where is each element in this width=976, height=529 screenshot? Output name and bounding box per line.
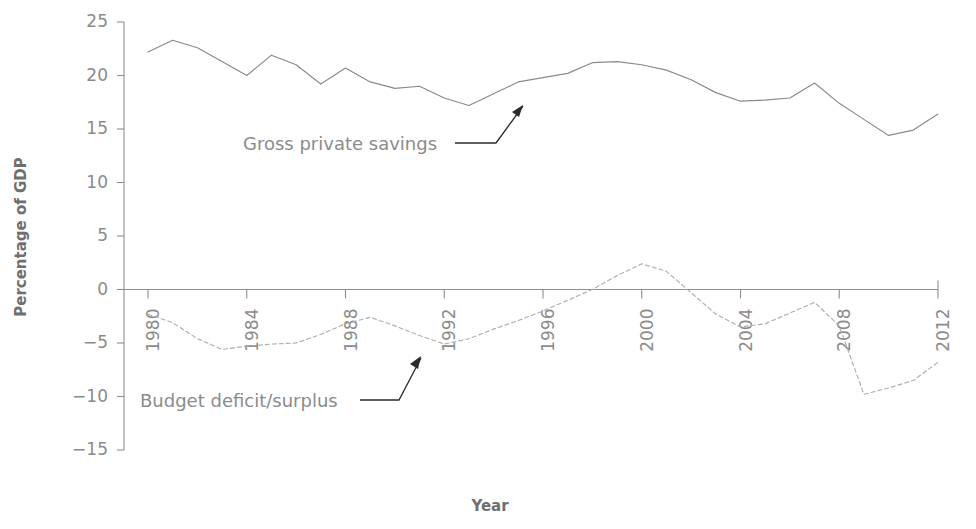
- annotation-label-budget-deficit-surplus: Budget deficit/surplus: [140, 390, 338, 411]
- y-axis: 2520151050−5−10−15: [72, 11, 124, 459]
- x-tick-label: 1992: [439, 309, 459, 352]
- x-tick-label: 1980: [143, 309, 163, 352]
- y-axis-title: Percentage of GDP: [12, 157, 30, 317]
- annotation-budget-deficit-surplus: Budget deficit/surplus: [140, 356, 421, 411]
- x-axis-title: Year: [470, 497, 509, 515]
- x-tick-label: 2008: [834, 309, 854, 352]
- line-chart-svg: 2520151050−5−10−15 198019841988199219962…: [0, 0, 976, 529]
- annotation-label-gross-private-savings: Gross private savings: [243, 133, 437, 154]
- x-tick-label: 1988: [341, 309, 361, 352]
- y-tick-label: 10: [86, 172, 108, 192]
- x-tick-label: 2004: [736, 309, 756, 352]
- y-tick-label: 0: [97, 279, 108, 299]
- series-line-gross-private-savings: [148, 40, 938, 135]
- arrow-head-gross-private-savings: [512, 105, 523, 117]
- y-tick-label: −10: [72, 386, 108, 406]
- arrow-head-budget-deficit-surplus: [410, 356, 421, 369]
- y-tick-label: 20: [86, 65, 108, 85]
- y-tick-label: −15: [72, 439, 108, 459]
- y-tick-label: 5: [97, 225, 108, 245]
- x-tick-label: 1996: [538, 309, 558, 352]
- annotation-gross-private-savings: Gross private savings: [243, 105, 523, 154]
- x-tick-label: 2012: [933, 309, 953, 352]
- y-tick-label: 15: [86, 118, 108, 138]
- y-tick-label: −5: [83, 332, 108, 352]
- y-tick-label: 25: [86, 11, 108, 31]
- chart-figure: 2520151050−5−10−15 198019841988199219962…: [0, 0, 976, 529]
- x-tick-label: 2000: [637, 309, 657, 352]
